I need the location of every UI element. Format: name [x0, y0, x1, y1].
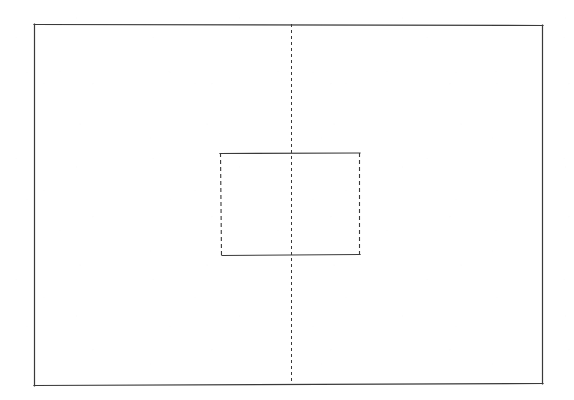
inner-rectangle-top-edge	[220, 153, 360, 154]
outer-rectangle-bottom-edge	[34, 384, 543, 386]
figure-canvas	[0, 0, 574, 400]
outer-rectangle-top-edge	[34, 25, 543, 26]
inner-rectangle-left-hidden-edge	[221, 153, 222, 256]
line-drawing-svg	[0, 0, 574, 400]
outer-rectangle	[34, 24, 543, 386]
inner-rectangle	[220, 153, 360, 256]
